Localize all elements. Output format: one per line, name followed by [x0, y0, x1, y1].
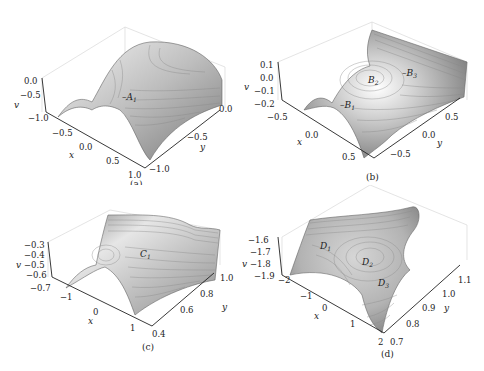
x-tick: −1 [60, 292, 73, 302]
surface-plot-a: 0.0 −0.5 v −1.0 −0.5 0.0 x 0.5 1.0 0.0 −… [0, 0, 242, 185]
panel-caption: (d) [381, 349, 394, 359]
y-axis-label: y [436, 138, 443, 148]
x-tick: −0.5 [52, 128, 73, 138]
y-tick: −0.5 [187, 132, 208, 142]
x-tick: −1 [300, 291, 313, 301]
v-axis: −0.3 −0.4 v −0.5 −0.6 −0.7 [16, 240, 51, 293]
panel-caption: (c) [142, 342, 154, 352]
y-axis-label: y [221, 302, 228, 312]
v-axis: 0.1 0.0 v −0.1 −0.2 [244, 60, 275, 109]
x-axis-label: x [69, 150, 74, 160]
v-tick: −0.7 [30, 283, 51, 293]
v-axis: 0.0 −0.5 v −1.0 [14, 76, 49, 123]
v-tick: −0.2 [254, 99, 275, 109]
x-tick: 0.5 [106, 156, 120, 166]
x-tick: −2 [278, 275, 291, 285]
x-axis-label: x [88, 316, 93, 326]
surface-plot-c: −0.3 −0.4 v −0.5 −0.6 −0.7 −1 0 x 1 1.0 … [0, 185, 242, 370]
y-tick: −1.0 [149, 164, 170, 174]
x-axis: −0.5 0.0 x 0.5 1.0 [52, 128, 142, 180]
x-tick: 0 [322, 303, 327, 313]
y-axis-label: y [199, 142, 206, 152]
x-tick: 1 [350, 319, 355, 329]
y-tick: 0.9 [422, 303, 436, 313]
v-tick: 0.0 [260, 73, 274, 83]
panel-caption: (b) [366, 172, 379, 182]
v-tick: −1.7 [250, 247, 271, 257]
v-tick: 0.0 [24, 76, 38, 86]
y-tick: 1.0 [442, 289, 456, 299]
panel-a: 0.0 −0.5 v −1.0 −0.5 0.0 x 0.5 1.0 0.0 −… [0, 0, 242, 185]
x-tick: 0.5 [342, 152, 356, 162]
x-axis-label: x [297, 137, 302, 147]
x-tick: 0.0 [305, 130, 319, 140]
y-tick: 0.6 [180, 305, 194, 315]
v-tick: −1.6 [248, 235, 269, 245]
x-tick: 0.0 [79, 142, 93, 152]
y-tick: −0.5 [390, 149, 411, 159]
panel-b: 0.1 0.0 v −0.1 −0.2 −0.5 0.0 x 0.5 0.5 0… [242, 0, 484, 185]
y-tick: 0.8 [200, 289, 214, 299]
x-axis-label: x [314, 311, 319, 321]
surface [304, 30, 467, 158]
v-tick: −1.8 [250, 259, 271, 269]
y-tick: 1.0 [220, 273, 234, 283]
y-axis-label: y [443, 303, 450, 313]
y-tick: 0.8 [406, 319, 420, 329]
v-axis-label: v [244, 82, 249, 92]
y-tick: 0.0 [422, 130, 436, 140]
panel-c: −0.3 −0.4 v −0.5 −0.6 −0.7 −1 0 x 1 1.0 … [0, 185, 242, 370]
v-tick: −1.9 [254, 271, 275, 281]
v-tick: −0.6 [26, 270, 47, 280]
v-tick: −0.5 [24, 260, 45, 270]
surface [66, 215, 220, 315]
y-tick: 0.5 [445, 112, 459, 122]
x-axis: −0.5 0.0 x 0.5 [267, 112, 356, 162]
y-axis: 1.1 1.0 0.9 y 0.8 0.7 [390, 275, 472, 347]
y-tick: 0.0 [219, 104, 233, 114]
y-tick: 0.4 [152, 329, 166, 339]
y-tick: 1.1 [458, 275, 472, 285]
v-axis: −1.6 −1.7 v −1.8 −1.9 [242, 235, 275, 281]
surface-plot-b: 0.1 0.0 v −0.1 −0.2 −0.5 0.0 x 0.5 0.5 0… [242, 0, 484, 185]
surface-plot-d: −1.6 −1.7 v −1.8 −1.9 −2 −1 0 x 1 2 1.1 … [242, 185, 484, 370]
v-axis-label: v [14, 100, 19, 110]
v-tick: −0.3 [24, 240, 45, 250]
v-axis-label: v [242, 259, 247, 269]
v-tick: −0.5 [20, 90, 41, 100]
surface [290, 207, 419, 333]
x-tick: 2 [378, 337, 383, 347]
x-tick: −0.5 [267, 112, 288, 122]
panel-d: −1.6 −1.7 v −1.8 −1.9 −2 −1 0 x 1 2 1.1 … [242, 185, 484, 370]
y-tick: 0.7 [390, 337, 404, 347]
v-tick: −1.0 [28, 113, 49, 123]
v-tick: −0.4 [24, 250, 45, 260]
v-axis-label: v [16, 260, 21, 270]
v-tick: −0.1 [254, 86, 275, 96]
v-tick: 0.1 [260, 60, 274, 70]
x-tick: 1 [130, 323, 135, 333]
x-tick: 0 [93, 307, 98, 317]
